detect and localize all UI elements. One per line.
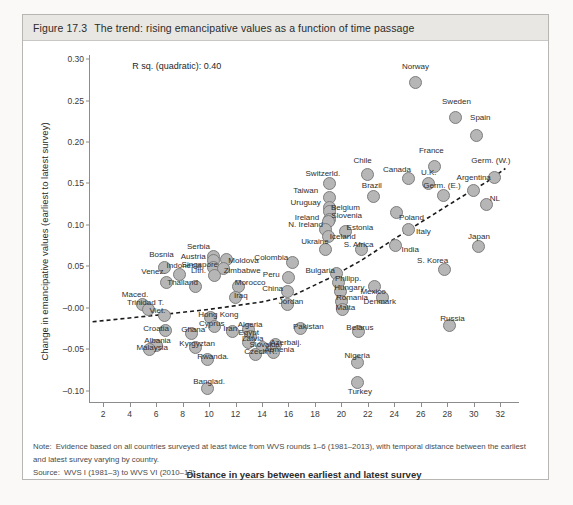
x-tick-label: 22 bbox=[363, 409, 372, 419]
data-point[interactable] bbox=[322, 230, 335, 243]
source-line: Source:WVS I (1981–3) to WVS VI (2010–13… bbox=[33, 467, 538, 480]
x-tick-mark bbox=[474, 402, 475, 407]
plot-region: Change in emancipative values (earliest … bbox=[23, 41, 550, 438]
x-tick-mark bbox=[209, 402, 210, 407]
x-tick-mark bbox=[156, 402, 157, 407]
x-tick-mark bbox=[236, 402, 237, 407]
data-point[interactable] bbox=[409, 76, 422, 89]
y-tick-mark bbox=[86, 224, 90, 225]
r-squared-annotation: R sq. (quadratic): 0.40 bbox=[132, 61, 221, 71]
data-point[interactable] bbox=[208, 269, 221, 282]
data-point[interactable] bbox=[158, 261, 171, 274]
x-tick-mark bbox=[262, 402, 263, 407]
data-point[interactable] bbox=[428, 160, 441, 173]
x-tick-label: 14 bbox=[257, 409, 266, 419]
y-tick-label: 0.15 bbox=[67, 178, 84, 188]
y-tick-label: 0.25 bbox=[67, 96, 84, 106]
note-label: Note: bbox=[33, 442, 52, 451]
data-point[interactable] bbox=[201, 353, 214, 366]
y-tick-mark bbox=[86, 349, 90, 350]
data-point[interactable] bbox=[367, 190, 380, 203]
figure-caption: Figure 17.3 The trend: rising emancipati… bbox=[23, 15, 548, 41]
y-tick-label: 0.20 bbox=[67, 137, 84, 147]
x-tick-label: 30 bbox=[469, 409, 478, 419]
x-tick-label: 20 bbox=[337, 409, 346, 419]
x-tick-mark bbox=[130, 402, 131, 407]
data-point[interactable] bbox=[402, 223, 415, 236]
x-tick-label: 4 bbox=[127, 409, 132, 419]
figure-notes: Note:Evidence based on all countries sur… bbox=[33, 441, 538, 480]
data-point[interactable] bbox=[158, 309, 171, 322]
note-line: Note:Evidence based on all countries sur… bbox=[33, 441, 538, 467]
x-tick-mark bbox=[500, 402, 501, 407]
x-tick-label: 2 bbox=[101, 409, 106, 419]
y-tick-mark bbox=[86, 307, 90, 308]
x-tick-mark bbox=[183, 402, 184, 407]
y-tick-label: 0.10 bbox=[67, 220, 84, 230]
data-point[interactable] bbox=[351, 356, 364, 369]
y-tick-label: 0.05 bbox=[67, 261, 84, 271]
x-tick-label: 8 bbox=[180, 409, 185, 419]
y-tick-label: 0.30 bbox=[67, 54, 84, 64]
y-tick-mark bbox=[86, 266, 90, 267]
x-tick-label: 6 bbox=[154, 409, 159, 419]
x-tick-label: 24 bbox=[390, 409, 399, 419]
data-point[interactable] bbox=[355, 243, 368, 256]
x-tick-mark bbox=[341, 402, 342, 407]
data-point[interactable] bbox=[323, 177, 336, 190]
data-point[interactable] bbox=[249, 348, 262, 361]
source-label: Source: bbox=[33, 468, 60, 477]
x-tick-mark bbox=[447, 402, 448, 407]
x-tick-label: 28 bbox=[442, 409, 451, 419]
x-tick-label: 12 bbox=[231, 409, 240, 419]
figure-page: Figure 17.3 The trend: rising emancipati… bbox=[0, 0, 573, 505]
data-point[interactable] bbox=[339, 225, 352, 238]
x-tick-label: 26 bbox=[416, 409, 425, 419]
axes: R sq. (quadratic): 0.40 0.300.250.200.15… bbox=[89, 55, 519, 403]
data-point[interactable] bbox=[189, 280, 202, 293]
x-tick-mark bbox=[103, 402, 104, 407]
x-tick-mark bbox=[315, 402, 316, 407]
y-tick-label: –0.00 bbox=[63, 303, 84, 313]
x-tick-mark bbox=[421, 402, 422, 407]
data-point[interactable] bbox=[143, 343, 156, 356]
figure-title: The trend: rising emancipative values as… bbox=[94, 22, 414, 34]
x-tick-label: 18 bbox=[310, 409, 319, 419]
data-point[interactable] bbox=[470, 129, 483, 142]
y-tick-label: –0.10 bbox=[63, 386, 84, 396]
figure-container: Figure 17.3 The trend: rising emancipati… bbox=[22, 14, 549, 480]
note-text: Evidence based on all countries surveyed… bbox=[33, 442, 526, 464]
data-point[interactable] bbox=[160, 276, 173, 289]
x-tick-mark bbox=[288, 402, 289, 407]
figure-number: Figure 17.3 bbox=[33, 22, 87, 34]
y-tick-label: –0.05 bbox=[63, 344, 84, 354]
data-point[interactable] bbox=[281, 298, 294, 311]
data-point[interactable] bbox=[351, 376, 364, 389]
y-tick-mark bbox=[86, 100, 90, 101]
data-point[interactable] bbox=[294, 322, 307, 335]
source-text: WVS I (1981–3) to WVS VI (2010–13). bbox=[64, 468, 197, 477]
data-point[interactable] bbox=[142, 303, 155, 316]
y-axis-title: Change in emancipative values (earliest … bbox=[37, 67, 51, 415]
x-tick-mark bbox=[394, 402, 395, 407]
x-tick-label: 16 bbox=[284, 409, 293, 419]
data-point[interactable] bbox=[336, 303, 349, 316]
y-tick-mark bbox=[86, 183, 90, 184]
x-tick-mark bbox=[368, 402, 369, 407]
x-tick-label: 10 bbox=[204, 409, 213, 419]
y-tick-mark bbox=[86, 59, 90, 60]
x-tick-label: 32 bbox=[495, 409, 504, 419]
y-tick-mark bbox=[86, 142, 90, 143]
y-tick-mark bbox=[86, 390, 90, 391]
